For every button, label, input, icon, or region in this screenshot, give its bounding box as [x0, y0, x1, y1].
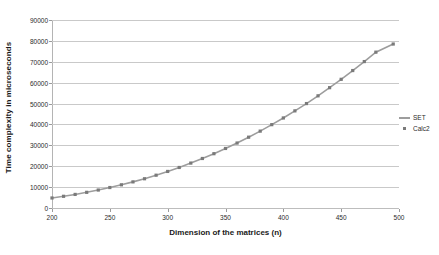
plot-area — [52, 20, 399, 208]
x-tick-mark — [110, 209, 111, 212]
x-tick-label: 200 — [47, 214, 58, 221]
x-tick-mark — [52, 209, 53, 212]
data-series-layer — [52, 20, 399, 208]
data-point-marker — [235, 141, 238, 144]
data-point-marker — [201, 157, 204, 160]
data-point-marker — [392, 42, 395, 45]
data-point-marker — [212, 152, 215, 155]
x-axis-title-text: Dimension of the matrices (n) — [169, 228, 281, 237]
x-tick-label: 350 — [220, 214, 231, 221]
y-tick-label: 0 — [4, 205, 48, 212]
series-markers-calc2 — [50, 42, 394, 199]
legend-label-set: SET — [413, 114, 426, 121]
data-point-marker — [120, 183, 123, 186]
x-tick-label: 250 — [104, 214, 115, 221]
data-point-marker — [166, 170, 169, 173]
data-point-marker — [85, 191, 88, 194]
data-point-marker — [340, 78, 343, 81]
legend-label-calc2: Calc2 — [413, 125, 430, 132]
x-tick-label: 450 — [336, 214, 347, 221]
series-line-set — [52, 44, 393, 198]
x-tick-label: 300 — [162, 214, 173, 221]
x-axis-ticks: 200250300350400450500 — [52, 209, 399, 227]
data-point-marker — [363, 60, 366, 63]
x-axis-title: Dimension of the matrices (n) — [52, 228, 399, 237]
legend-line-swatch-icon — [399, 113, 410, 122]
x-tick-mark — [226, 209, 227, 212]
legend-item-set: SET — [399, 112, 439, 123]
data-point-marker — [143, 177, 146, 180]
data-point-marker — [74, 193, 77, 196]
data-point-marker — [351, 69, 354, 72]
data-point-marker — [131, 180, 134, 183]
x-tick-mark — [399, 209, 400, 212]
data-point-marker — [178, 166, 181, 169]
data-point-marker — [155, 174, 158, 177]
data-point-marker — [282, 116, 285, 119]
y-tick-label: 40000 — [4, 121, 48, 128]
x-tick-mark — [168, 209, 169, 212]
data-point-marker — [247, 136, 250, 139]
chart-figure: Time complexity in microseconds 01000020… — [0, 0, 439, 255]
x-tick-mark — [283, 209, 284, 212]
data-point-marker — [259, 130, 262, 133]
data-point-marker — [62, 195, 65, 198]
data-point-marker — [189, 161, 192, 164]
data-point-marker — [328, 86, 331, 89]
y-tick-label: 30000 — [4, 142, 48, 149]
data-point-marker — [108, 186, 111, 189]
legend-item-calc2: Calc2 — [399, 123, 439, 134]
x-tick-mark — [341, 209, 342, 212]
data-point-marker — [224, 147, 227, 150]
data-point-marker — [374, 51, 377, 54]
data-point-marker — [293, 109, 296, 112]
data-point-marker — [316, 94, 319, 97]
data-point-marker — [50, 196, 53, 199]
y-tick-label: 70000 — [4, 58, 48, 65]
chart-legend: SET Calc2 — [399, 112, 439, 134]
data-point-marker — [270, 123, 273, 126]
y-axis-ticks: 0100002000030000400005000060000700008000… — [0, 20, 48, 209]
legend-marker-swatch-icon — [399, 124, 410, 133]
x-tick-label: 400 — [278, 214, 289, 221]
y-tick-label: 80000 — [4, 37, 48, 44]
y-tick-label: 10000 — [4, 184, 48, 191]
y-tick-label: 50000 — [4, 100, 48, 107]
y-tick-label: 90000 — [4, 17, 48, 24]
x-tick-label: 500 — [394, 214, 405, 221]
y-tick-label: 60000 — [4, 79, 48, 86]
y-tick-label: 20000 — [4, 163, 48, 170]
data-point-marker — [97, 188, 100, 191]
data-point-marker — [305, 102, 308, 105]
